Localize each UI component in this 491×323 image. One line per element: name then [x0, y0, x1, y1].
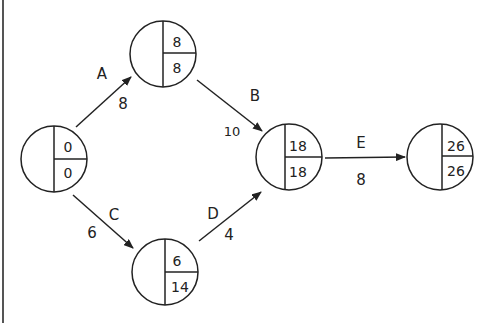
- node-3-earliest: 18: [289, 138, 307, 154]
- edge-D: D 4: [199, 192, 261, 244]
- edge-D-activity: D: [207, 205, 219, 223]
- edge-C-activity: C: [109, 206, 119, 224]
- edge-A-duration: 8: [118, 95, 128, 113]
- node-2-earliest: 8: [173, 34, 182, 50]
- edge-A-activity: A: [97, 65, 108, 83]
- node-4: 6 14: [132, 239, 198, 305]
- node-1-earliest: 0: [64, 139, 73, 155]
- node-4-earliest: 6: [173, 253, 182, 269]
- node-4-latest: 14: [171, 279, 189, 295]
- edge-E-duration: 8: [356, 171, 366, 189]
- node-5-latest: 26: [447, 163, 465, 179]
- node-1: 0 0: [21, 126, 87, 192]
- node-2: 8 8: [130, 21, 196, 87]
- node-5-earliest: 26: [447, 138, 465, 154]
- node-5: 26 26: [407, 124, 473, 190]
- node-3: 18 18: [256, 124, 322, 190]
- edge-E: E 8: [325, 134, 405, 189]
- edge-B: B 10: [197, 80, 262, 139]
- node-2-latest: 8: [173, 60, 182, 76]
- edge-C-duration: 6: [87, 224, 97, 242]
- node-3-latest: 18: [289, 164, 307, 180]
- diagram-frame: A 8 B 10 C 6 D 4 E 8 0 0: [0, 0, 491, 323]
- network-diagram: A 8 B 10 C 6 D 4 E 8 0 0: [0, 0, 491, 323]
- edge-B-duration: 10: [224, 124, 241, 139]
- edge-E-activity: E: [356, 134, 365, 152]
- edge-B-activity: B: [250, 87, 260, 105]
- edge-C: C 6: [73, 195, 133, 248]
- node-1-latest: 0: [64, 165, 73, 181]
- edge-D-duration: 4: [224, 226, 234, 244]
- edge-A: A 8: [76, 65, 131, 127]
